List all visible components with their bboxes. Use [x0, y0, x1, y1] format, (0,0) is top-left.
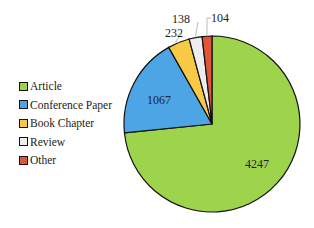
pie-slices — [124, 36, 300, 212]
legend-swatch — [19, 156, 28, 165]
legend-item-review: Review — [19, 133, 112, 152]
legend-label: Conference Paper — [30, 99, 112, 111]
data-label: 1067 — [147, 93, 171, 107]
legend-label: Review — [30, 136, 65, 148]
data-label: 104 — [211, 11, 229, 25]
data-label: 4247 — [245, 157, 269, 171]
legend: Article Conference Paper Book Chapter Re… — [19, 77, 112, 170]
data-label: 232 — [165, 26, 183, 40]
legend-swatch — [19, 119, 28, 128]
legend-label: Book Chapter — [30, 117, 94, 129]
legend-label: Article — [30, 80, 62, 92]
legend-item-other: Other — [19, 151, 112, 170]
legend-item-book-chapter: Book Chapter — [19, 114, 112, 133]
legend-item-conference-paper: Conference Paper — [19, 96, 112, 115]
legend-item-article: Article — [19, 77, 112, 96]
data-label: 138 — [172, 12, 190, 26]
legend-swatch — [19, 82, 28, 91]
leader-line — [196, 22, 198, 38]
legend-swatch — [19, 137, 28, 146]
legend-swatch — [19, 100, 28, 109]
legend-label: Other — [30, 154, 56, 166]
